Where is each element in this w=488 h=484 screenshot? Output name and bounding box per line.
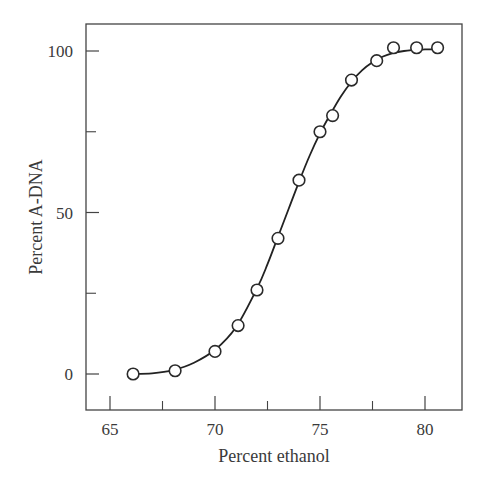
data-point: [251, 284, 263, 296]
data-point: [388, 42, 400, 54]
data-point: [272, 233, 284, 245]
data-point: [432, 42, 444, 54]
data-point: [346, 74, 358, 86]
x-axis-title: Percent ethanol: [218, 446, 329, 466]
x-tick-label: 75: [312, 420, 329, 439]
plot-frame: [86, 24, 462, 410]
data-point: [293, 174, 305, 186]
y-tick-label: 100: [48, 42, 74, 61]
data-point: [411, 42, 423, 54]
data-point: [127, 368, 139, 380]
a-dna-ethanol-chart: 050100 65707580 Percent ethanol Percent …: [0, 0, 488, 484]
y-axis-ticks: 050100: [48, 42, 100, 384]
y-tick-label: 0: [65, 365, 74, 384]
data-point: [314, 126, 326, 138]
data-point: [327, 110, 339, 122]
data-point-markers: [127, 42, 443, 380]
x-tick-label: 80: [417, 420, 434, 439]
x-tick-label: 70: [207, 420, 224, 439]
sigmoid-fit-curve: [131, 49, 438, 374]
x-axis-ticks: 65707580: [102, 396, 434, 439]
data-point: [209, 346, 221, 358]
data-point: [232, 320, 244, 332]
y-axis-title: Percent A-DNA: [26, 159, 46, 274]
data-point: [169, 365, 181, 377]
y-tick-label: 50: [56, 204, 73, 223]
x-tick-label: 65: [102, 420, 119, 439]
data-point: [371, 55, 383, 67]
